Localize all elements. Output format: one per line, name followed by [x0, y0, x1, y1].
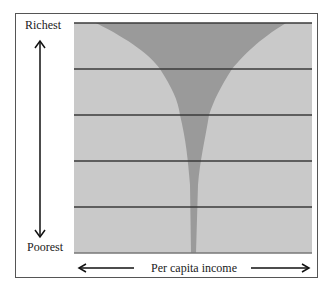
x-axis-label: Per capita income	[151, 261, 237, 275]
vertical-arrow-icon	[35, 41, 45, 237]
left-arrow-icon	[79, 264, 134, 272]
richest-label: Richest	[25, 18, 61, 32]
poorest-label: Poorest	[27, 240, 63, 254]
right-arrow-icon	[251, 264, 309, 272]
